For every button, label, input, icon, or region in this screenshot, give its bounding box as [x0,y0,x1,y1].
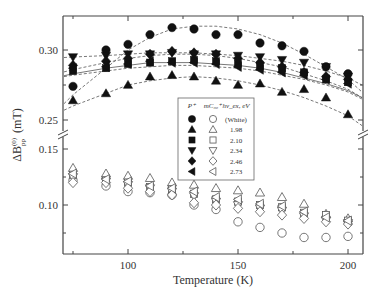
data-point-triangle-up [299,85,308,93]
data-point-triangle-up [68,96,77,104]
series-p-2-10-ev [69,56,351,86]
series-mc60-white [69,176,352,242]
data-point-triangle-up [277,87,286,95]
y-tick-label: 0.30 [39,44,59,56]
series-mc60-2-46-ev [68,178,352,230]
legend-label: 1.98 [230,126,243,134]
data-point-triangle-up [321,93,330,101]
x-tick-label: 150 [230,259,247,271]
legend-marker-filled-square [189,137,195,143]
data-point-diamond [277,210,286,220]
data-point-triangle-up [277,193,286,201]
x-axis-title: Temperature (K) [173,273,253,287]
data-point-circle [124,40,132,48]
data-point-circle [256,223,264,231]
data-point-triangle-up [145,72,154,80]
data-point-triangle-up [145,174,154,182]
data-point-circle [168,23,176,31]
legend-marker-filled-circle [188,115,195,122]
data-point-triangle-up [343,110,352,118]
legend-header: P⁺ [187,102,197,110]
data-point-circle [300,233,308,241]
data-point-circle [322,233,330,241]
legend-header: mC₆₀⁺ [204,102,224,110]
x-tick-label: 100 [120,259,137,271]
y-axis-title: ΔB(0)pp(mT) [10,108,27,162]
y-axis-title-sup: (0) [10,137,18,146]
data-point-triangle-up [101,89,110,97]
legend-label: 2.73 [230,168,243,176]
data-point-triangle-up [189,72,198,80]
y-axis-title-main: ΔB [10,146,24,162]
legend-marker-open-circle [209,115,216,122]
data-point-circle [256,39,264,47]
legend: P⁺mC₆₀⁺hν_ex, eV(White)1.982.102.342.462… [178,98,254,180]
legend-label: (White) [225,116,247,124]
data-point-triangle-up [255,79,264,87]
data-point-triangle-up [233,186,242,194]
y-tick-label: 0.15 [39,143,59,155]
data-point-triangle-up [211,76,220,84]
legend-header: hν_ex, eV [222,102,250,110]
data-point-circle [278,42,286,50]
chart: 1001502000.250.300.100.15 P⁺mC₆₀⁺hν_ex, … [0,0,384,305]
y-axis-title-sub: pp [19,138,27,146]
x-tick-label: 200 [340,259,357,271]
data-point-triangle-up [167,71,176,79]
legend-label: 2.10 [230,137,243,145]
data-point-circle [190,25,198,33]
y-axis-title-unit: (mT) [10,108,24,133]
legend-marker-open-square [210,137,216,143]
data-point-triangle-down [299,59,308,67]
data-point-circle [234,218,242,226]
data-point-triangle-up [211,184,220,192]
data-point-circle [300,47,308,55]
data-point-circle [212,30,220,38]
data-point-circle [69,82,77,90]
data-point-circle [344,232,352,240]
data-point-circle [278,229,286,237]
y-tick-label: 0.10 [39,199,59,211]
y-tick-label: 0.25 [39,114,59,126]
legend-label: 2.46 [230,158,243,166]
data-point-circle [234,30,242,38]
series-mc60-2-34-ev [68,174,352,228]
data-point-circle [146,30,154,38]
data-point-triangle-up [299,199,308,207]
data-point-diamond [167,46,176,56]
svg-text:ΔB(0)pp(mT): ΔB(0)pp(mT) [10,108,27,162]
legend-label: 2.34 [230,147,243,155]
series-p-2-46-ev [68,46,352,84]
data-point-triangle-up [255,188,264,196]
